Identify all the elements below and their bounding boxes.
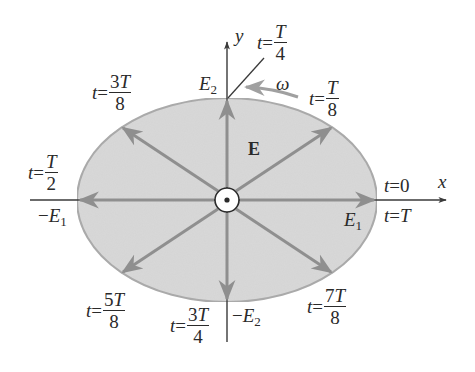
t-half-den: 2	[45, 173, 58, 193]
time-label-t-quarter: t=T4	[257, 22, 287, 63]
t-3eighth-num: T	[120, 71, 131, 92]
t0-eq: =	[389, 175, 400, 196]
t-3quarter-den: 4	[187, 326, 209, 346]
t-half-eq: =	[33, 162, 44, 183]
time-label-t-3eighth: t=3T8	[92, 72, 131, 113]
y-label-text: y	[235, 25, 243, 46]
t-7eighth-num: T	[335, 285, 346, 306]
omega-text: ω	[276, 73, 289, 94]
omega-label: ω	[276, 74, 289, 93]
t-eighth-den: 8	[326, 99, 339, 119]
amplitude-minus-E2: −E2	[232, 306, 261, 328]
x-axis-label: x	[438, 172, 446, 191]
t-3quarter-eq: =	[175, 315, 186, 336]
tT-eq: =	[389, 205, 400, 226]
time-label-t-eighth: t=T8	[309, 78, 339, 119]
t-3eighth-coef: 3	[110, 71, 120, 92]
minus-e2-sign: −	[232, 305, 243, 326]
e1-base: E	[344, 209, 356, 230]
t-3eighth-eq: =	[97, 82, 108, 103]
time-label-t-half: t=T2	[28, 152, 58, 193]
field-vector-label: E	[248, 140, 260, 158]
t-5eighth-den: 8	[103, 311, 125, 331]
omega-rotation-arrow	[246, 87, 298, 97]
out-of-page-dot	[224, 197, 229, 202]
t-5eighth-coef: 5	[104, 289, 114, 310]
t-7eighth-den: 8	[324, 307, 346, 327]
t-5eighth-num: T	[114, 289, 125, 310]
time-label-t-3quarter: t=3T4	[170, 305, 209, 346]
leader-line-t-quarter	[228, 58, 264, 98]
t-quarter-eq: =	[262, 32, 273, 53]
amplitude-minus-E1: −E1	[38, 206, 67, 228]
t-eighth-num: T	[326, 78, 339, 99]
time-label-t0: t=0	[384, 176, 410, 195]
minus-e1-sub: 1	[60, 214, 67, 229]
t-3quarter-coef: 3	[188, 304, 198, 325]
field-E-text: E	[248, 139, 260, 159]
e1-sub: 1	[356, 218, 363, 233]
x-label-text: x	[438, 171, 446, 192]
t-quarter-den: 4	[274, 43, 287, 63]
t-7eighth-coef: 7	[325, 285, 335, 306]
tT-value: T	[400, 205, 411, 226]
minus-e1-sign: −	[38, 205, 49, 226]
t-half-num: T	[45, 152, 58, 173]
t-5eighth-eq: =	[91, 300, 102, 321]
t-3eighth-den: 8	[109, 93, 131, 113]
time-label-t-5eighth: t=5T8	[86, 290, 125, 331]
e2-sub: 2	[211, 82, 218, 97]
time-label-tT: t=T	[384, 206, 411, 225]
t-3quarter-num: T	[198, 304, 209, 325]
minus-e2-base: E	[243, 305, 255, 326]
y-axis-label: y	[235, 26, 243, 45]
e2-base: E	[199, 73, 211, 94]
minus-e1-base: E	[49, 205, 61, 226]
t-quarter-num: T	[274, 22, 287, 43]
t0-value: 0	[400, 175, 410, 196]
amplitude-E1: E1	[344, 210, 362, 232]
t-7eighth-eq: =	[312, 296, 323, 317]
t-eighth-eq: =	[314, 88, 325, 109]
time-label-t-7eighth: t=7T8	[307, 286, 346, 327]
minus-e2-sub: 2	[254, 314, 261, 329]
amplitude-E2: E2	[199, 74, 217, 96]
